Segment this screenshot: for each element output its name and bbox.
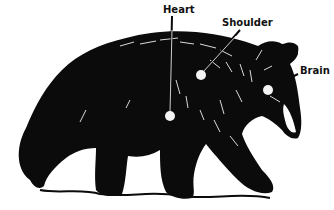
brain-marker [263,85,273,95]
shoulder-label: Shoulder [222,18,273,28]
ground-line [40,190,270,198]
brain-label: Brain [300,66,330,76]
heart-label: Heart [163,5,195,15]
bear-diagram: Heart Shoulder Brain [0,0,334,210]
bear-illustration [0,0,334,210]
heart-marker [165,111,175,121]
shoulder-marker [196,70,206,80]
bear-body [19,31,302,199]
